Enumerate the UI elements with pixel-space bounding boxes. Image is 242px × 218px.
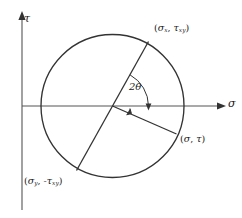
two-theta-label: 2θ — [129, 82, 141, 92]
arrowhead-down-icon — [146, 104, 152, 111]
paren-close: ) — [186, 22, 190, 33]
arrow-right-icon — [217, 102, 226, 109]
tau-subscript: xy — [179, 27, 186, 33]
sigma-axis — [22, 102, 226, 109]
mohrs-circle-figure: τ σ (σx, τxy) (σy, -τxy) (σ, τ) 2θ — [0, 0, 242, 218]
point-label-sigma-tau: (σ, τ) — [180, 134, 205, 144]
paren-close: ) — [59, 175, 63, 186]
point-label-sigma-x-tau-xy: (σx, τxy) — [154, 23, 189, 34]
point-label-sigma-y-neg-tau-xy: (σy, -τxy) — [24, 176, 62, 187]
tau-subscript: xy — [52, 180, 59, 186]
radius-to-sigma-tau-line — [113, 106, 177, 134]
paren-close: ) — [202, 133, 206, 144]
tau-symbol: -τ — [44, 175, 52, 186]
tau-axis-label: τ — [24, 13, 30, 24]
right-angle-tick — [127, 109, 132, 115]
sigma-axis-label: σ — [228, 98, 236, 109]
